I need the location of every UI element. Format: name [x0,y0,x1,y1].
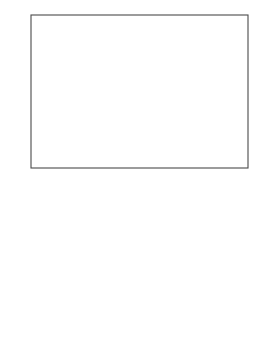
plot-frame-a [31,15,248,168]
two-panel-plot [0,0,263,347]
panel-a [31,15,248,168]
figure-container [0,0,263,347]
